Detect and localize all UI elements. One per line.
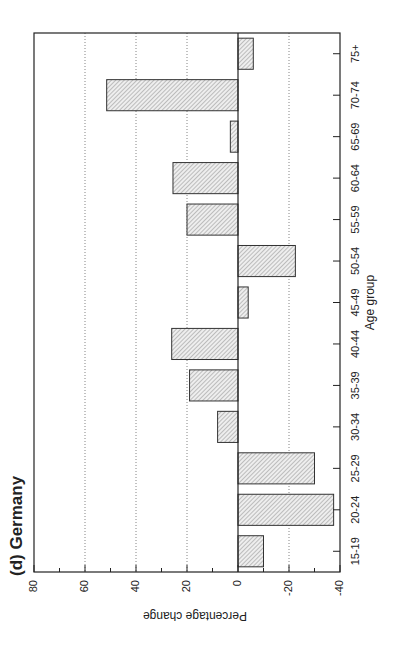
chart-figure: -40-20020406080Percentage change15-1920-… <box>0 0 398 648</box>
category-label: 25-29 <box>349 454 361 482</box>
category-axis-title: Age group <box>363 274 377 330</box>
plot-frame <box>34 33 340 572</box>
value-axis-title: Percentage change <box>143 609 247 623</box>
chart-body: -40-20020406080Percentage change15-1920-… <box>7 33 377 623</box>
category-label: 15-19 <box>349 537 361 565</box>
bar-chart: -40-20020406080Percentage change15-1920-… <box>0 0 398 648</box>
value-tick-label: 80 <box>27 580 39 592</box>
bar-20-24 <box>238 494 334 525</box>
bar-60-64 <box>173 163 238 194</box>
bar-50-54 <box>238 245 295 276</box>
category-label: 70-74 <box>349 81 361 109</box>
bar-25-29 <box>238 453 315 484</box>
category-label: 50-54 <box>349 247 361 275</box>
bar-15-19 <box>238 536 264 567</box>
category-label: 55-59 <box>349 206 361 234</box>
bar-75+ <box>238 38 253 69</box>
bar-30-34 <box>218 411 238 442</box>
category-label: 35-39 <box>349 371 361 399</box>
category-label: 75+ <box>349 44 361 63</box>
value-tick-label: -40 <box>333 580 345 596</box>
value-tick-label: 60 <box>78 580 90 592</box>
value-tick-label: 0 <box>231 580 243 586</box>
panel-title: (d) Germany <box>7 475 26 576</box>
category-label: 20-24 <box>349 496 361 524</box>
category-label: 65-69 <box>349 123 361 151</box>
bar-70-74 <box>107 80 238 111</box>
bar-55-59 <box>187 204 238 235</box>
value-tick-label: 20 <box>180 580 192 592</box>
category-label: 30-34 <box>349 413 361 441</box>
value-tick-label: -20 <box>282 580 294 596</box>
category-label: 45-49 <box>349 288 361 316</box>
value-tick-label: 40 <box>129 580 141 592</box>
bar-40-44 <box>172 328 238 359</box>
category-label: 60-64 <box>349 164 361 192</box>
bar-65-69 <box>230 121 238 152</box>
category-label: 40-44 <box>349 330 361 358</box>
bar-35-39 <box>190 370 238 401</box>
bar-45-49 <box>238 287 248 318</box>
